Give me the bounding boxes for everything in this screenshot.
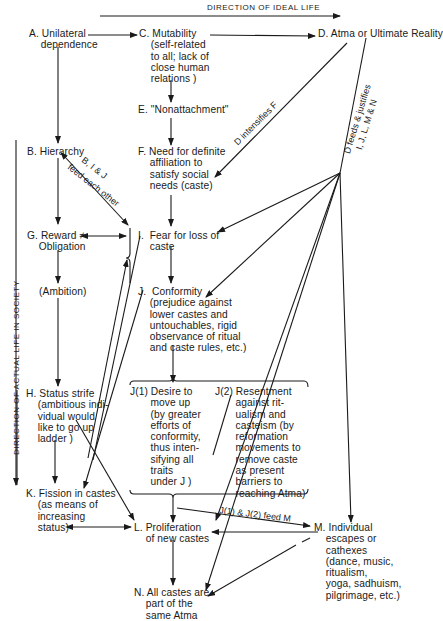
node-i-fear-of-loss: I. Fear for loss of caste [138, 230, 219, 253]
node-c-mutability: C. Mutability (self-related to all; lack… [139, 28, 210, 84]
node-h-status-strife: H. Status strife (ambitious indi- vidual… [26, 388, 108, 444]
node-f-need-for-affiliation: F. Need for definite affiliation to sati… [138, 146, 226, 191]
node-b-hierarchy: B. Hierarchy [27, 146, 84, 157]
node-d-atma: D. Atma or Ultimate Reality [318, 28, 443, 39]
node-k-fission: K. Fission in castes (as means of increa… [26, 488, 116, 533]
node-m-individual-escapes: M. Individual escapes or cathexes (dance… [314, 522, 401, 601]
actual-life-direction-label: DIRECTION OF ACTUAL LIFE IN SOCIETY [12, 280, 21, 455]
node-j1-desire-to-move-up: J(1) Desire to move up (by greater effor… [130, 386, 201, 488]
node-l-proliferation: L. Proliferation of new castes [134, 522, 209, 545]
node-e-nonattachment: E. "Nonattachment" [138, 104, 229, 115]
node-j-conformity: J. Conformity (prejudice against lower c… [138, 286, 246, 354]
node-j2-resentment: J(2) Resentment against rit- ualism and … [215, 386, 305, 499]
node-g-reward-obligation: G. Reward ≠ Obligation [27, 230, 86, 253]
node-n-all-castes-atma: N. All castes are part of the same Atma [134, 587, 209, 621]
node-ambition: (Ambition) [39, 286, 86, 297]
node-a-unilateral-dependence: A. Unilateral dependence [29, 28, 98, 51]
ideal-life-direction-label: DIRECTION OF IDEAL LIFE [207, 3, 320, 12]
